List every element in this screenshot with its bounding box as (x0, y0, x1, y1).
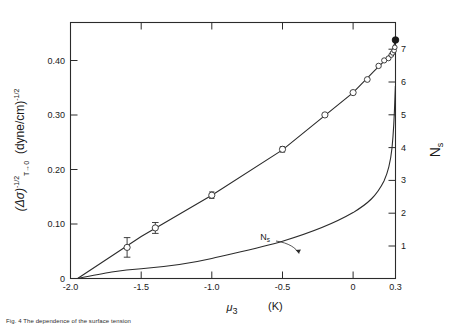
y-tick-label-left: 0.10 (47, 219, 65, 229)
y-tick-label-left: 0.20 (47, 165, 65, 175)
data-point (376, 63, 381, 68)
figure-caption: Fig. 4 The dependence of the surface ten… (6, 318, 131, 324)
x-tick-label: -2.0 (63, 282, 79, 292)
data-points (124, 37, 399, 251)
x-tick-label: -0.5 (275, 282, 291, 292)
y-axis-left-ticks (71, 61, 78, 279)
y-tick-label-right: 6 (401, 77, 406, 87)
x-tick-label: 0 (351, 282, 356, 292)
y-axis-title-right: Ns (427, 142, 445, 157)
y-tick-labels-left: 0 0.10 0.20 0.30 0.40 (47, 56, 65, 284)
y-tick-label-right: 7 (401, 44, 406, 54)
y-tick-label-right: 5 (401, 110, 406, 120)
x-tick-label: 0.3 (389, 282, 402, 292)
y-tick-label-right: 2 (401, 208, 406, 218)
saturation-point (392, 37, 399, 44)
data-point (364, 77, 370, 83)
ns-annotation-label: Ns (260, 232, 271, 243)
plot-frame (71, 23, 396, 279)
ns-annotation: Ns (260, 232, 301, 254)
y-tick-label-left: 0.40 (47, 56, 65, 66)
x-axis-title-units: (K) (268, 300, 283, 312)
y-tick-labels-right: 1 2 3 4 5 6 7 (401, 44, 406, 251)
data-point (279, 146, 285, 152)
y-tick-label-right: 1 (401, 241, 406, 251)
data-point (152, 225, 158, 231)
x-axis-ticks (71, 23, 396, 279)
data-point (393, 45, 398, 50)
y-tick-label-right: 3 (401, 175, 406, 185)
x-tick-labels: -2.0 -1.5 -1.0 -0.5 0 0.3 (63, 282, 402, 292)
x-axis-title: μ3 (K) (225, 300, 282, 316)
y-axis-title-left-text: (Δσ)-1/2T→0 (dyne/cm)-1/2 (13, 89, 30, 212)
y-tick-label-left: 0 (60, 274, 65, 284)
fit-line-curve (78, 40, 396, 278)
y-axis-title-right-text: Ns (427, 142, 445, 157)
x-tick-label: -1.0 (204, 282, 220, 292)
y-tick-label-left: 0.30 (47, 110, 65, 120)
x-axis-title-symbol: μ3 (225, 301, 237, 316)
data-point (322, 112, 328, 118)
chart-svg: -2.0 -1.5 -1.0 -0.5 0 0.3 0 0.10 0.20 0.… (0, 0, 465, 325)
figure-container: -2.0 -1.5 -1.0 -0.5 0 0.3 0 0.10 0.20 0.… (0, 0, 465, 325)
y-tick-label-right: 4 (401, 143, 406, 153)
data-point (209, 192, 215, 198)
data-point (124, 244, 130, 250)
x-tick-label: -1.5 (133, 282, 149, 292)
y-axis-title-left: (Δσ)-1/2T→0 (dyne/cm)-1/2 (13, 89, 30, 212)
data-point (350, 90, 356, 96)
